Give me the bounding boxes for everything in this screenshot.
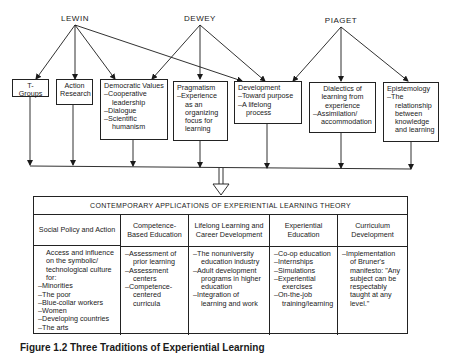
- concept-item: A lifelong process: [238, 101, 298, 118]
- column-item: Integration of learning and work: [193, 291, 265, 308]
- applications-table: CONTEMPORARY APPLICATIONS OF EXPERIENTIA…: [33, 196, 408, 334]
- column-header: Lifelong Learning and Career Development: [189, 215, 269, 247]
- column-header: Social Policy and Action: [34, 215, 120, 246]
- author-lewin: LEWIN: [45, 14, 105, 23]
- concept-title: T-Groups: [16, 82, 45, 99]
- concept-democratic-values: Democratic Values Cooperative leadership…: [100, 79, 168, 140]
- column-experiential: Experiential Education Co-op education I…: [270, 215, 338, 335]
- concept-epistemology: Epistemology The relationship between kn…: [383, 82, 439, 142]
- column-item: Implementation of Bruner's manifesto: "A…: [342, 250, 403, 308]
- column-lifelong: Lifelong Learning and Career Development…: [189, 215, 270, 335]
- concept-action-research: Action Research: [56, 79, 93, 105]
- column-social-policy: Social Policy and Action Access and infl…: [34, 215, 121, 335]
- concept-t-groups: T-Groups: [12, 79, 49, 97]
- column-item: The arts: [38, 324, 116, 332]
- column-item: Experiential exercises: [274, 275, 333, 292]
- column-competence: Competence-Based Education Assessment of…: [121, 215, 189, 335]
- column-item: Competence-centered curricula: [125, 283, 184, 308]
- concept-pragmatism: Pragmatism Experience as an organizing f…: [173, 81, 228, 141]
- column-item: On-the-job training/learning: [274, 291, 333, 308]
- table-title: CONTEMPORARY APPLICATIONS OF EXPERIENTIA…: [34, 197, 407, 215]
- column-item: Adult development programs in higher edu…: [193, 267, 265, 292]
- concept-item: Cooperative leadership: [104, 90, 164, 107]
- concept-item: The relationship between knowledge and l…: [387, 93, 435, 134]
- column-item: Assessment centers: [125, 267, 184, 284]
- figure-caption: Figure 1.2 Three Traditions of Experient…: [20, 342, 265, 353]
- author-piaget: PIAGET: [311, 16, 371, 25]
- concept-title: Dialectics of learning from experience: [313, 85, 372, 110]
- concept-item: Experience as an organizing focus for le…: [177, 92, 224, 133]
- column-intro: Access and influence on the symbolic/ te…: [38, 249, 116, 282]
- concept-development: Development Toward purpose A lifelong pr…: [234, 81, 302, 124]
- column-header: Curriculum Development: [338, 215, 407, 247]
- author-dewey: DEWEY: [170, 14, 230, 23]
- column-item: Assessment of prior learning: [125, 250, 184, 267]
- column-header: Competence-Based Education: [121, 215, 188, 247]
- column-curriculum: Curriculum Development Implementation of…: [338, 215, 407, 335]
- column-item: The nonuniversity education industry: [193, 250, 265, 267]
- column-header: Experiential Education: [270, 215, 337, 247]
- concept-title: Action Research: [60, 82, 89, 99]
- concept-dialectics: Dialectics of learning from experience A…: [309, 82, 376, 133]
- concept-item: Scientific humanism: [104, 115, 164, 132]
- concept-item: Assimilation/ accommodation: [313, 110, 372, 127]
